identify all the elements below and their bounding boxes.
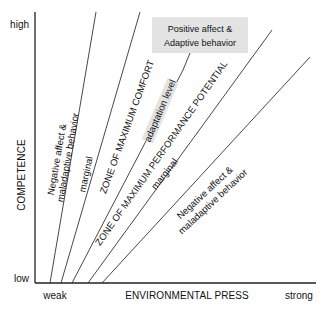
callout-pointer	[183, 53, 190, 70]
y-high-label: high	[10, 19, 29, 30]
x-weak-label: weak	[42, 290, 67, 301]
y-low-label: low	[14, 273, 30, 284]
upper-marginal-label: marginal	[76, 155, 94, 193]
x-strong-label: strong	[285, 290, 313, 301]
y-axis-title: COMPETENCE	[16, 139, 27, 211]
ecological-model-diagram: Positive affect & Adaptive behavior high…	[0, 0, 330, 311]
callout-line-1: Positive affect &	[168, 24, 232, 34]
callout-line-2: Adaptive behavior	[164, 38, 236, 48]
x-axis-title: ENVIRONMENTAL PRESS	[125, 290, 249, 301]
